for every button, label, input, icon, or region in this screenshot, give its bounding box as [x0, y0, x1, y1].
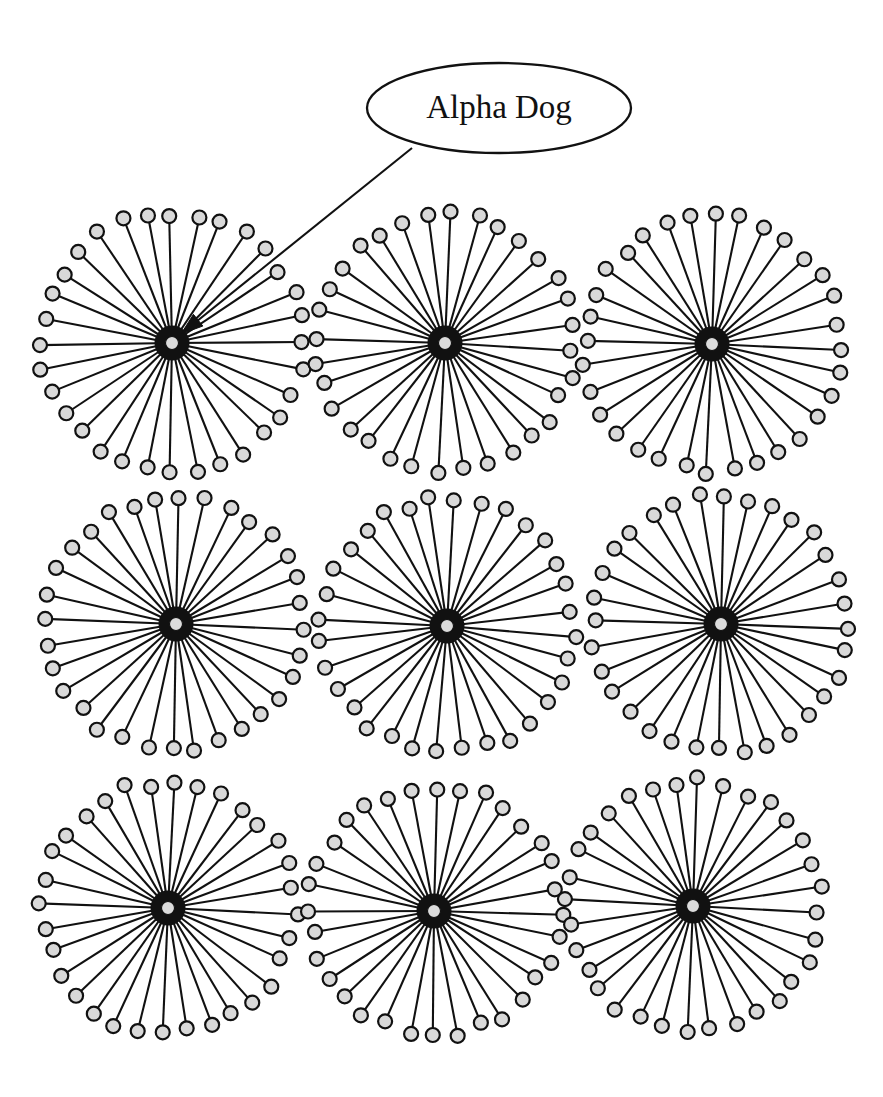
leaf-node[interactable] — [525, 429, 539, 443]
leaf-node[interactable] — [163, 465, 177, 479]
leaf-node[interactable] — [778, 233, 792, 247]
leaf-node[interactable] — [771, 445, 785, 459]
leaf-node[interactable] — [90, 225, 104, 239]
leaf-node[interactable] — [563, 344, 577, 358]
leaf-node[interactable] — [430, 783, 444, 797]
leaf-node[interactable] — [595, 665, 609, 679]
leaf-node[interactable] — [271, 834, 285, 848]
leaf-node[interactable] — [559, 577, 573, 591]
leaf-node[interactable] — [506, 446, 520, 460]
leaf-node[interactable] — [838, 643, 852, 657]
leaf-node[interactable] — [312, 613, 326, 627]
leaf-node[interactable] — [581, 334, 595, 348]
leaf-node[interactable] — [764, 795, 778, 809]
leaf-node[interactable] — [39, 312, 53, 326]
leaf-node[interactable] — [54, 969, 68, 983]
leaf-node[interactable] — [780, 813, 794, 827]
leaf-node[interactable] — [585, 640, 599, 654]
leaf-node[interactable] — [832, 671, 846, 685]
leaf-node[interactable] — [596, 566, 610, 580]
leaf-node[interactable] — [281, 549, 295, 563]
leaf-node[interactable] — [323, 972, 337, 986]
leaf-node[interactable] — [608, 1003, 622, 1017]
leaf-node[interactable] — [647, 508, 661, 522]
leaf-node[interactable] — [240, 225, 254, 239]
leaf-node[interactable] — [811, 410, 825, 424]
leaf-node[interactable] — [717, 489, 731, 503]
leaf-node[interactable] — [584, 826, 598, 840]
leaf-node[interactable] — [652, 452, 666, 466]
leaf-node[interactable] — [429, 744, 443, 758]
leaf-node[interactable] — [191, 465, 205, 479]
leaf-node[interactable] — [245, 996, 259, 1010]
leaf-node[interactable] — [622, 526, 636, 540]
leaf-node[interactable] — [783, 728, 797, 742]
leaf-node[interactable] — [825, 389, 839, 403]
leaf-node[interactable] — [320, 587, 334, 601]
leaf-node[interactable] — [385, 729, 399, 743]
leaf-node[interactable] — [250, 818, 264, 832]
leaf-node[interactable] — [549, 557, 563, 571]
leaf-node[interactable] — [621, 246, 635, 260]
leaf-node[interactable] — [75, 424, 89, 438]
leaf-node[interactable] — [271, 265, 285, 279]
leaf-node[interactable] — [631, 443, 645, 457]
leaf-node[interactable] — [553, 930, 567, 944]
leaf-node[interactable] — [294, 335, 308, 349]
leaf-node[interactable] — [378, 1014, 392, 1028]
leaf-node[interactable] — [65, 541, 79, 555]
leaf-node[interactable] — [583, 385, 597, 399]
leaf-node[interactable] — [377, 505, 391, 519]
leaf-node[interactable] — [455, 741, 469, 755]
leaf-node[interactable] — [519, 518, 533, 532]
leaf-node[interactable] — [681, 1025, 695, 1039]
leaf-node[interactable] — [805, 857, 819, 871]
leaf-node[interactable] — [784, 975, 798, 989]
leaf-node[interactable] — [838, 597, 852, 611]
leaf-node[interactable] — [213, 215, 227, 229]
leaf-node[interactable] — [357, 798, 371, 812]
leaf-node[interactable] — [148, 493, 162, 507]
leaf-node[interactable] — [832, 572, 846, 586]
leaf-node[interactable] — [404, 1027, 418, 1041]
leaf-node[interactable] — [295, 308, 309, 322]
leaf-node[interactable] — [609, 427, 623, 441]
leaf-node[interactable] — [683, 209, 697, 223]
leaf-node[interactable] — [555, 675, 569, 689]
leaf-node[interactable] — [528, 970, 542, 984]
leaf-node[interactable] — [738, 745, 752, 759]
leaf-node[interactable] — [480, 736, 494, 750]
leaf-node[interactable] — [589, 288, 603, 302]
leaf-node[interactable] — [802, 708, 816, 722]
leaf-node[interactable] — [499, 502, 513, 516]
leaf-node[interactable] — [516, 993, 530, 1007]
leaf-node[interactable] — [326, 562, 340, 576]
hub-node[interactable] — [428, 905, 441, 918]
leaf-node[interactable] — [404, 459, 418, 473]
leaf-node[interactable] — [71, 245, 85, 259]
leaf-node[interactable] — [131, 1024, 145, 1038]
leaf-node[interactable] — [362, 434, 376, 448]
leaf-node[interactable] — [584, 310, 598, 324]
leaf-node[interactable] — [830, 318, 844, 332]
leaf-node[interactable] — [180, 1021, 194, 1035]
leaf-node[interactable] — [538, 533, 552, 547]
leaf-node[interactable] — [444, 205, 458, 219]
hub-node[interactable] — [162, 902, 175, 915]
leaf-node[interactable] — [127, 500, 141, 514]
leaf-node[interactable] — [286, 670, 300, 684]
leaf-node[interactable] — [254, 707, 268, 721]
leaf-node[interactable] — [589, 613, 603, 627]
leaf-node[interactable] — [716, 779, 730, 793]
leaf-node[interactable] — [622, 789, 636, 803]
leaf-node[interactable] — [543, 415, 557, 429]
leaf-node[interactable] — [236, 448, 250, 462]
leaf-node[interactable] — [302, 877, 316, 891]
leaf-node[interactable] — [318, 661, 332, 675]
leaf-node[interactable] — [338, 989, 352, 1003]
leaf-node[interactable] — [293, 649, 307, 663]
leaf-node[interactable] — [512, 234, 526, 248]
leaf-node[interactable] — [728, 461, 742, 475]
leaf-node[interactable] — [669, 778, 683, 792]
leaf-node[interactable] — [344, 542, 358, 556]
